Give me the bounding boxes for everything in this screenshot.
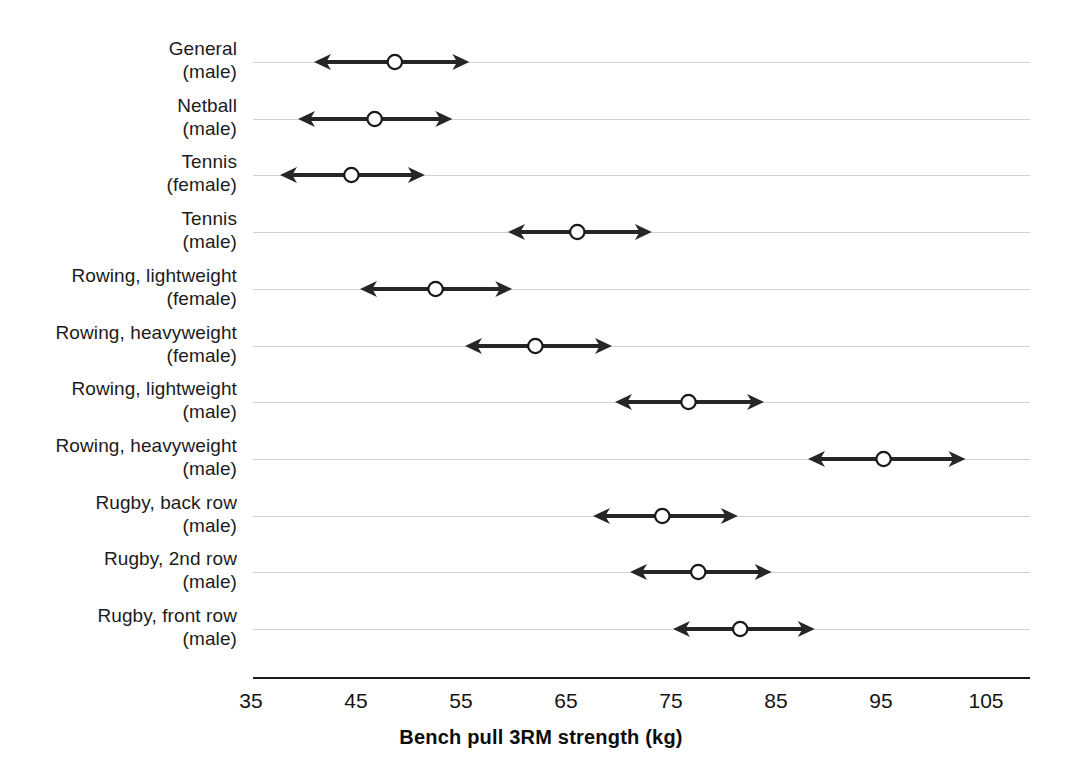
mean-marker [528, 339, 542, 353]
range-marker [611, 389, 768, 415]
range-marker [504, 219, 656, 245]
range-marker [356, 276, 516, 302]
bench-pull-strength-chart: General(male)Netball(male)Tennis(female)… [0, 0, 1082, 780]
x-tick-label: 95 [841, 690, 921, 711]
mean-marker [345, 168, 359, 182]
range-marker [804, 446, 970, 472]
x-tick-label: 45 [316, 690, 396, 711]
mean-marker [691, 565, 705, 579]
x-tick-label: 65 [526, 690, 606, 711]
mean-marker [876, 452, 890, 466]
mean-marker [388, 55, 402, 69]
x-tick-label: 75 [631, 690, 711, 711]
mean-marker [570, 225, 584, 239]
x-tick-label: 35 [211, 690, 291, 711]
range-marker [461, 333, 616, 359]
range-marker [276, 162, 429, 188]
gridline [253, 346, 1030, 347]
range-marker [310, 49, 473, 75]
x-axis-line [253, 677, 1030, 679]
x-axis-title: Bench pull 3RM strength (kg) [0, 726, 1082, 749]
range-marker [626, 559, 776, 585]
range-marker [589, 503, 742, 529]
mean-marker [682, 395, 696, 409]
x-tick-label: 55 [421, 690, 501, 711]
x-tick-label: 105 [946, 690, 1026, 711]
range-marker [669, 616, 819, 642]
gridline [253, 629, 1030, 630]
mean-marker [655, 509, 669, 523]
plot-area [0, 0, 1082, 780]
x-tick-label: 85 [736, 690, 816, 711]
mean-marker [733, 622, 747, 636]
mean-marker [429, 282, 443, 296]
range-marker [294, 106, 456, 132]
mean-marker [368, 112, 382, 126]
